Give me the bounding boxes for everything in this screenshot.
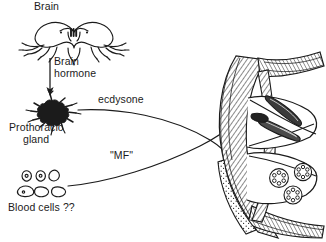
tissue-cross-section <box>218 52 326 238</box>
label-ecdysone: ecdysone <box>98 94 144 106</box>
brain-hormone-arrow <box>46 58 53 96</box>
blood-cells-illustration <box>18 170 66 197</box>
label-prothoracic-line2: gland <box>23 133 49 145</box>
label-prothoracic-gland: Prothoracicgland <box>9 122 63 145</box>
label-prothoracic-line1: Prothoracic <box>9 121 63 133</box>
label-brain-hormone-line2: hormone <box>54 67 96 79</box>
label-blood-cells: Blood cells ?? <box>8 202 75 214</box>
label-brain-hormone-line1: Brain <box>54 55 79 67</box>
label-brain: Brain <box>34 1 59 13</box>
diagram-canvas: Brain Brainhormone ecdysone Prothoracicg… <box>0 0 326 242</box>
mf-line <box>68 122 236 186</box>
signal-connector-lines <box>68 110 238 186</box>
label-brain-hormone: Brainhormone <box>54 56 96 79</box>
label-mf: "MF" <box>110 150 133 162</box>
